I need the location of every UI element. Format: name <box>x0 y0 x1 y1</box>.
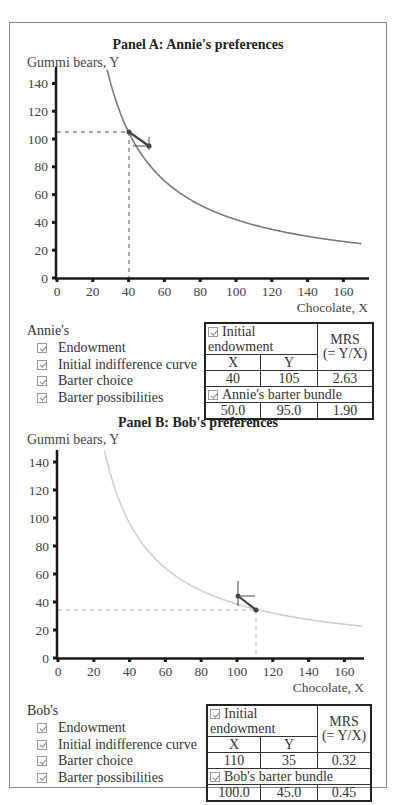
checkbox-checked-icon[interactable] <box>210 709 220 719</box>
annie-info-table: Initial endowment MRS(= Y/X) X Y 40 105 … <box>204 322 374 420</box>
x-axis-label: Chocolate, X <box>293 680 364 695</box>
checkbox-checked-icon[interactable] <box>210 772 220 782</box>
annie-mrs-header: MRS(= Y/X) <box>318 323 373 371</box>
y-tick-label: 20 <box>36 623 50 638</box>
annie-toggle-indifference-curve[interactable]: Initial indifference curve <box>27 357 197 374</box>
bob-mrs-header: MRS(= Y/X) <box>318 705 371 753</box>
annie-col-y: Y <box>260 355 317 371</box>
checkbox-checked-icon[interactable] <box>37 376 47 386</box>
x-tick-label: 60 <box>159 664 173 679</box>
panel-b-title: Panel B: Bob's preferences <box>9 415 387 431</box>
bob-col-x: X <box>207 737 260 753</box>
bob-barter-x: 100.0 <box>207 785 260 802</box>
y-tick-label: 80 <box>36 539 50 554</box>
annie-toggle-barter-choice[interactable]: Barter choice <box>27 373 197 390</box>
bob-legend-heading: Bob's <box>27 703 197 719</box>
bob-toggle-barter-possibilities[interactable]: Barter possibilities <box>27 770 197 787</box>
checkbox-checked-icon[interactable] <box>37 756 47 766</box>
annie-endowment-mrs: 2.63 <box>318 371 373 387</box>
annie-endowment-y: 105 <box>260 371 317 387</box>
bob-col-y: Y <box>260 737 317 753</box>
y-tick-label: 0 <box>42 651 49 666</box>
x-tick-label: 100 <box>227 664 248 679</box>
checkbox-checked-icon[interactable] <box>37 740 47 750</box>
x-tick-label: 0 <box>55 664 62 679</box>
x-tick-label: 160 <box>334 664 355 679</box>
annie-endowment-x: 40 <box>205 371 260 387</box>
bob-barter-header[interactable]: Bob's barter bundle <box>207 769 371 785</box>
bob-barter-point <box>236 594 241 599</box>
panel-b-chart: 020406080100120140020406080100120140160C… <box>0 0 404 330</box>
x-tick-label: 80 <box>194 664 208 679</box>
checkbox-checked-icon[interactable] <box>37 343 47 353</box>
y-tick-label: 60 <box>36 567 50 582</box>
checkbox-checked-icon[interactable] <box>37 360 47 370</box>
bob-toggle-indifference-curve[interactable]: Initial indifference curve <box>27 737 197 754</box>
x-tick-label: 120 <box>263 664 284 679</box>
y-tick-label: 140 <box>29 455 50 470</box>
y-tick-label: 100 <box>29 511 50 526</box>
panel-b-y-axis-label: Gummi bears, Y <box>27 432 119 448</box>
checkbox-checked-icon[interactable] <box>37 773 47 783</box>
bob-toggle-endowment[interactable]: Endowment <box>27 720 197 737</box>
bob-endowment-y: 35 <box>260 753 317 769</box>
bob-barter-mrs: 0.45 <box>318 785 371 802</box>
bob-info-table: Initial endowment MRS(= Y/X) X Y 110 35 … <box>206 704 372 802</box>
checkbox-checked-icon[interactable] <box>37 393 47 403</box>
annie-barter-header[interactable]: Annie's barter bundle <box>205 387 373 403</box>
checkbox-checked-icon[interactable] <box>208 390 218 400</box>
x-tick-label: 20 <box>87 664 101 679</box>
bob-endowment-header[interactable]: Initial endowment <box>207 705 318 737</box>
bob-endowment-x: 110 <box>207 753 260 769</box>
bob-barter-y: 45.0 <box>260 785 317 802</box>
checkbox-checked-icon[interactable] <box>37 723 47 733</box>
x-tick-label: 140 <box>298 664 319 679</box>
annie-toggle-barter-possibilities[interactable]: Barter possibilities <box>27 390 197 407</box>
y-tick-label: 120 <box>29 483 50 498</box>
bob-toggle-barter-choice[interactable]: Barter choice <box>27 753 197 770</box>
y-tick-label: 40 <box>36 595 50 610</box>
panel-a-legend: Annie's Endowment Initial indifference c… <box>27 323 197 406</box>
bob-endowment-mrs: 0.32 <box>318 753 371 769</box>
bob-endowment-point <box>254 608 259 613</box>
annie-col-x: X <box>205 355 260 371</box>
annie-toggle-endowment[interactable]: Endowment <box>27 340 197 357</box>
panel-b-legend: Bob's Endowment Initial indifference cur… <box>27 703 197 786</box>
x-tick-label: 40 <box>123 664 137 679</box>
